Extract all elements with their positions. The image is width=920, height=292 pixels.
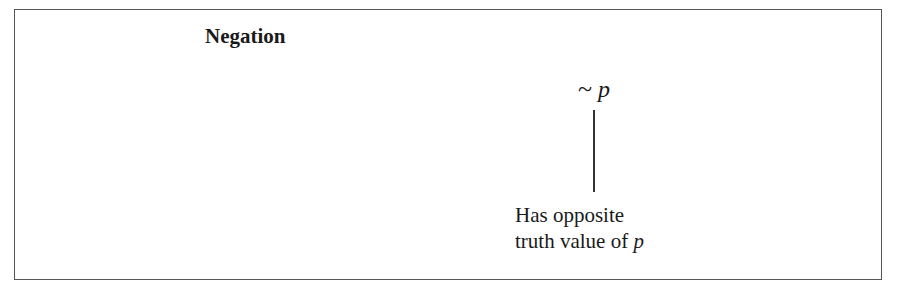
annotation-line-2: truth value of p — [515, 228, 644, 254]
diagram-frame — [14, 9, 882, 280]
expression-variable: p — [598, 76, 610, 102]
negation-operator: ~ — [578, 74, 592, 103]
negation-expression: ~p — [578, 74, 610, 104]
annotation-text: Has opposite truth value of p — [515, 202, 644, 254]
annotation-line-1: Has opposite — [515, 202, 644, 228]
annotation-line-2-prefix: truth value of — [515, 229, 633, 253]
diagram-title: Negation — [205, 24, 286, 49]
annotation-variable: p — [633, 229, 644, 253]
connector-line — [593, 110, 595, 192]
